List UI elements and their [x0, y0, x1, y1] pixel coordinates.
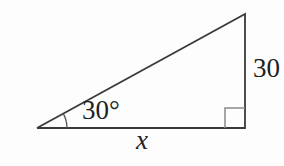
angle-arc	[63, 114, 67, 128]
triangle-diagram-canvas: 30° 30 x	[0, 0, 284, 166]
triangle-figure: 30° 30 x	[0, 0, 284, 166]
angle-label: 30°	[82, 95, 120, 125]
base-label: x	[135, 125, 148, 155]
vertical-side-label: 30	[253, 53, 280, 83]
right-angle-marker-icon	[225, 108, 245, 128]
triangle-outline	[37, 14, 245, 128]
